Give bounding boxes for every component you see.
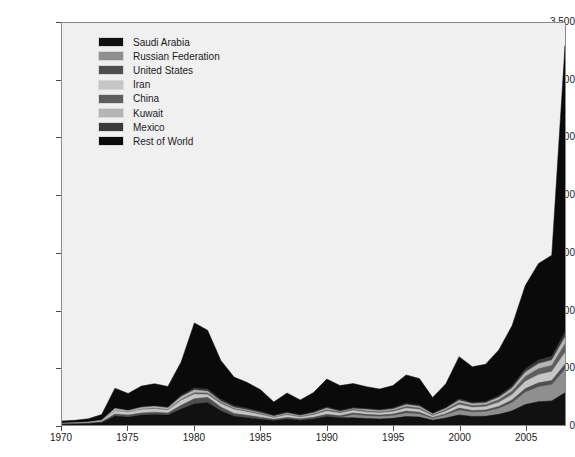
- legend-swatch-icon: [98, 51, 124, 61]
- x-tick-label: 1980: [174, 432, 214, 443]
- x-tick-label: 2000: [440, 432, 480, 443]
- legend-item: Saudi Arabia: [98, 35, 220, 49]
- legend-swatch-icon: [98, 94, 124, 104]
- x-tick-mark: [194, 426, 195, 431]
- x-tick-label: 2005: [506, 432, 546, 443]
- legend-item-label: China: [133, 93, 159, 104]
- x-tick-mark: [526, 426, 527, 431]
- legend-item: Mexico: [98, 120, 220, 134]
- legend-item: Iran: [98, 78, 220, 92]
- legend-item-label: Iran: [133, 79, 150, 90]
- legend-item: Russian Federation: [98, 49, 220, 63]
- y-axis-title: Value of rent from oil production (billi…: [0, 0, 12, 28]
- x-tick-mark: [260, 426, 261, 431]
- legend-swatch-icon: [98, 80, 124, 90]
- legend-item-label: Russian Federation: [133, 51, 220, 62]
- legend-item: United States: [98, 63, 220, 77]
- legend-item: Kuwait: [98, 106, 220, 120]
- x-tick-mark: [61, 426, 62, 431]
- x-tick-mark: [327, 426, 328, 431]
- x-tick-label: 1975: [107, 432, 147, 443]
- legend-swatch-icon: [98, 108, 124, 118]
- stacked-area-chart: Value of rent from oil production (billi…: [0, 0, 575, 457]
- x-tick-mark: [460, 426, 461, 431]
- legend-item-label: Rest of World: [133, 136, 193, 147]
- legend-item-label: United States: [133, 65, 193, 76]
- legend-item-label: Saudi Arabia: [133, 37, 190, 48]
- legend-swatch-icon: [98, 37, 124, 47]
- legend-item: China: [98, 92, 220, 106]
- x-tick-label: 1990: [307, 432, 347, 443]
- x-tick-mark: [393, 426, 394, 431]
- x-tick-label: 1995: [373, 432, 413, 443]
- x-tick-label: 1985: [240, 432, 280, 443]
- legend-item: Rest of World: [98, 134, 220, 148]
- legend-swatch-icon: [98, 122, 124, 132]
- legend-swatch-icon: [98, 65, 124, 75]
- legend-item-label: Kuwait: [133, 108, 163, 119]
- legend-swatch-icon: [98, 136, 124, 146]
- x-tick-label: 1970: [41, 432, 81, 443]
- legend-item-label: Mexico: [133, 122, 165, 133]
- legend: Saudi ArabiaRussian FederationUnited Sta…: [98, 35, 220, 149]
- x-tick-mark: [127, 426, 128, 431]
